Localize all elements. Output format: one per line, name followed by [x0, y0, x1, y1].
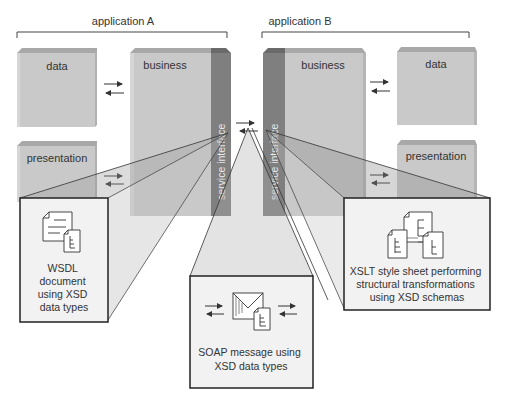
app-b-data-label: data [425, 58, 447, 70]
app-b-business-label: business [301, 59, 345, 71]
app-b-data-layer: data [397, 47, 477, 125]
soap-callout: SOAP message using XSD data types [190, 276, 313, 388]
app-a-presentation-label: presentation [27, 152, 88, 164]
application-b-bracket: application B [262, 15, 469, 38]
app-a-data-label: data [46, 60, 68, 72]
app-a-data-layer: data [17, 48, 97, 127]
xslt-callout: XSLT style sheet performing structural t… [344, 198, 490, 310]
application-a-label: application A [92, 15, 155, 27]
application-b-label: application B [269, 15, 332, 27]
bidirectional-arrow-icon [370, 82, 390, 91]
app-b-presentation-label: presentation [406, 150, 467, 162]
application-a-bracket: application A [17, 15, 227, 38]
wsdl-callout: WSDL document using XSD data types [20, 198, 108, 322]
xslt-caption: XSLT style sheet performing structural t… [350, 265, 484, 303]
bidirectional-arrow-icon [104, 84, 124, 93]
soa-diagram: application A application B data present… [0, 0, 505, 401]
app-a-business-label: business [143, 59, 187, 71]
